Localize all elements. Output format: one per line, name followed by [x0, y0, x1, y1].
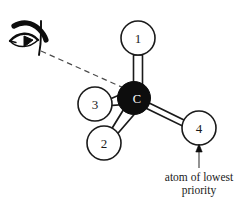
substituent-1: 1: [121, 21, 155, 55]
chirality-figure: C 1 3 2 4 atom of lowest p: [0, 0, 245, 200]
substituent-4: 4: [182, 111, 216, 145]
substituent-4-label: 4: [196, 121, 203, 136]
substituent-3-label: 3: [92, 97, 99, 112]
figure-canvas: C 1 3 2 4 atom of lowest p: [0, 0, 245, 200]
annotation-text: atom of lowest priority: [165, 171, 234, 197]
annotation-line-1: atom of lowest: [165, 171, 234, 183]
carbon-center: C: [118, 82, 151, 115]
eye-icon: [10, 21, 46, 55]
substituent-2-label: 2: [101, 136, 108, 151]
substituent-2: 2: [87, 126, 121, 160]
substituent-1-label: 1: [135, 31, 142, 46]
substituent-3: 3: [78, 87, 112, 121]
line-of-sight: [41, 51, 126, 89]
annotation-line-2: priority: [182, 184, 217, 197]
annotation-pointer: [196, 144, 202, 168]
carbon-center-label: C: [133, 92, 141, 106]
